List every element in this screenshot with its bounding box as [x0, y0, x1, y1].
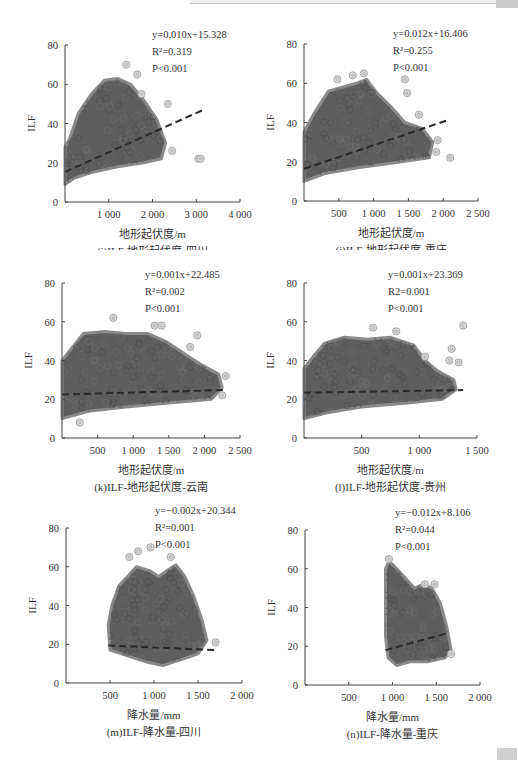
p-value: P<0.001 [393, 62, 428, 73]
x-tick-label: 4 000 [228, 209, 252, 220]
chart-m: 0204060805001 0001 5002 000ILFy=−0.002x+… [0, 500, 258, 760]
outlier-marker [360, 70, 367, 77]
x-tick-label: 1 500 [424, 692, 448, 703]
y-tick-label: 0 [293, 680, 298, 691]
x-tick-label: 500 [90, 445, 106, 456]
outlier-marker [370, 324, 377, 331]
r-squared: R²=0.044 [395, 524, 435, 535]
chart-n: 0204060805001 0001 5002 000ILFy=−0.012x+… [258, 500, 517, 760]
outlier-marker [422, 353, 429, 360]
outlier-marker [194, 332, 201, 339]
x-tick-label: 500 [102, 690, 118, 701]
y-tick-label: 0 [50, 433, 55, 444]
y-tick-label: 80 [287, 39, 298, 50]
y-tick-label: 0 [53, 197, 58, 208]
chart-caption: (l)ILF-地形起伏度-贵州 [335, 480, 446, 494]
x-tick-label: 1 500 [465, 445, 489, 456]
x-tick-label: 1 000 [121, 445, 145, 456]
y-tick-label: 20 [288, 641, 299, 652]
y-tick-label: 20 [287, 157, 298, 168]
outlier-marker [334, 76, 341, 83]
x-tick-label: 2 000 [431, 208, 455, 219]
outlier-marker [448, 345, 455, 352]
chart-k: 0204060805001 0001 5002 0002 500ILFy=0.0… [0, 250, 258, 500]
outlier-marker [187, 343, 194, 350]
x-axis-label: 降水量/mm [127, 708, 181, 721]
y-tick-label: 40 [49, 601, 60, 612]
r-squared: R²=0.319 [152, 46, 192, 57]
regression-equation: y=−0.012x+8.106 [395, 507, 471, 518]
outlier-marker [434, 137, 441, 144]
r-squared: R²=0.255 [393, 45, 433, 56]
x-tick-label: 2 000 [230, 690, 254, 701]
chart-caption: (k)ILF-地形起伏度-云南 [94, 480, 208, 494]
y-tick-label: 60 [287, 78, 298, 89]
p-value: P<0.001 [395, 541, 430, 552]
y-axis-label: ILF [26, 597, 38, 614]
outlier-marker [403, 89, 410, 96]
outlier-marker [433, 148, 440, 155]
chart-l: 0204060805001 0001 500ILFy=0.001x+23.369… [258, 250, 517, 500]
outlier-marker [447, 154, 454, 161]
scatter-markers [301, 42, 480, 204]
x-tick-label: 1 500 [157, 445, 181, 456]
x-tick-label: 2 500 [228, 445, 252, 456]
y-tick-label: 20 [287, 394, 298, 405]
p-value: P<0.001 [388, 303, 423, 314]
outlier-marker [455, 359, 462, 366]
y-tick-label: 40 [288, 603, 299, 614]
y-axis-label: ILF [264, 114, 276, 131]
chart-caption: (j)ILF-地形起伏度-重庆 [335, 243, 446, 250]
y-tick-label: 60 [288, 564, 299, 575]
outlier-marker [151, 322, 158, 329]
y-tick-label: 80 [45, 278, 56, 289]
outlier-marker [219, 392, 226, 399]
x-tick-label: 2 000 [193, 445, 217, 456]
outlier-marker [197, 155, 204, 162]
y-axis-label: ILF [22, 352, 34, 369]
y-tick-label: 80 [49, 523, 60, 534]
outlier-marker [385, 555, 392, 562]
scatter-markers [302, 527, 483, 688]
x-tick-label: 1 500 [186, 690, 210, 701]
outlier-marker [110, 314, 117, 321]
x-tick-label: 1 000 [408, 445, 432, 456]
regression-equation: y=−0.002x+20.344 [155, 505, 237, 516]
outlier-marker [415, 111, 422, 118]
r-squared: R²=0.002 [145, 286, 185, 297]
outlier-marker [222, 372, 229, 379]
outlier-marker [158, 322, 165, 329]
y-tick-label: 80 [287, 278, 298, 289]
outlier-marker [446, 357, 453, 364]
scatter-cloud [65, 78, 166, 184]
chart-i: 0204060801 0002 0003 0004 000ILFy=0.010x… [0, 0, 258, 250]
outlier-marker [421, 581, 428, 588]
outlier-marker [123, 61, 130, 68]
scatter-cloud [108, 565, 207, 666]
outlier-marker [431, 581, 438, 588]
y-tick-label: 60 [45, 317, 56, 328]
x-tick-label: 1 000 [381, 692, 405, 703]
regression-equation: y=0.012x+16.406 [393, 28, 468, 39]
x-tick-label: 1 000 [97, 209, 121, 220]
y-tick-label: 0 [54, 678, 59, 689]
y-tick-label: 60 [49, 562, 60, 573]
outlier-marker [169, 147, 176, 154]
x-tick-label: 2 000 [468, 692, 492, 703]
y-tick-label: 60 [287, 317, 298, 328]
outlier-marker [138, 90, 145, 97]
regression-equation: y=0.001x+23.369 [388, 269, 463, 280]
chart-caption: (m)ILF-降水量-四川 [107, 725, 202, 739]
outlier-marker [76, 419, 83, 426]
y-tick-label: 40 [287, 118, 298, 129]
x-axis-label: 降水量/mm [366, 710, 420, 723]
outlier-marker [167, 553, 174, 560]
outlier-marker [349, 72, 356, 79]
y-tick-label: 20 [48, 158, 59, 169]
r-squared: R²=0.001 [155, 522, 195, 533]
y-tick-label: 80 [288, 525, 299, 536]
y-tick-label: 80 [48, 40, 59, 51]
y-tick-label: 20 [49, 639, 60, 650]
x-tick-label: 500 [331, 208, 347, 219]
outlier-marker [164, 100, 171, 107]
